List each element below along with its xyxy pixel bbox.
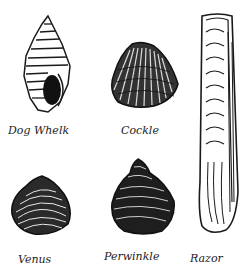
dog-whelk-drawing	[18, 14, 76, 114]
cockle-label: Cockle	[121, 124, 159, 137]
periwinkle-label: Perwinkle	[104, 250, 159, 263]
venus-drawing	[8, 174, 74, 236]
dog-whelk-label: Dog Whelk	[8, 124, 69, 137]
venus-label: Venus	[18, 253, 51, 266]
shell-illustration: Dog Whelk Cockle Razor	[0, 0, 252, 273]
razor-label: Razor	[190, 252, 223, 265]
cockle-drawing	[108, 40, 180, 110]
razor-drawing	[196, 12, 242, 238]
periwinkle-drawing	[108, 157, 178, 237]
